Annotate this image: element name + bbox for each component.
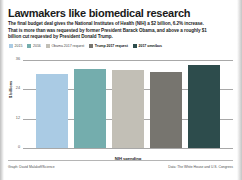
figure-inner: Lawmakers like biomedical research The f… <box>5 0 237 180</box>
chart-bar[interactable] <box>188 65 220 148</box>
y-axis-tick-label: 0 <box>9 145 20 149</box>
y-axis-tick-label: 24 <box>9 86 20 90</box>
legend-item[interactable]: 2016 <box>27 44 40 48</box>
chart-bar[interactable] <box>36 74 68 148</box>
legend-swatch-icon <box>46 44 50 48</box>
chart-bar[interactable] <box>112 70 144 148</box>
legend-label: 2017 omnibus <box>139 44 162 48</box>
legend-item[interactable]: 2015 <box>9 44 22 48</box>
legend-item[interactable]: 2017 omnibus <box>133 44 162 48</box>
footer-divider <box>8 160 233 161</box>
legend-item[interactable]: Obama 2017 request <box>46 44 84 48</box>
y-axis-tick-label: 12 <box>9 116 20 120</box>
page-title: Lawmakers like biomedical research <box>8 7 190 19</box>
legend-swatch-icon <box>27 44 31 48</box>
legend-label: Trump 2017 request <box>95 44 128 48</box>
legend-label: Obama 2017 request <box>51 44 84 48</box>
legend-swatch-icon <box>89 44 93 48</box>
data-source: Data: The White House and U.S. Congress <box>168 165 233 169</box>
legend-item[interactable]: Trump 2017 request <box>89 44 128 48</box>
chart-bar[interactable] <box>150 72 182 149</box>
chart-plot-area: $ billions 3624120 NIH spending <box>9 52 233 152</box>
figure-panel: Lawmakers like biomedical research The f… <box>0 0 242 180</box>
chart-legend: 20152016Obama 2017 requestTrump 2017 req… <box>9 44 162 48</box>
graph-credit: Graph: David Malakoff/Science <box>8 165 55 169</box>
figure-subtitle: The final budget deal gives the National… <box>8 21 208 41</box>
legend-label: 2016 <box>33 44 41 48</box>
legend-swatch-icon <box>9 44 13 48</box>
chart-bar[interactable] <box>74 69 106 148</box>
legend-label: 2015 <box>15 44 23 48</box>
y-axis-tick-label: 36 <box>9 57 20 61</box>
legend-swatch-icon <box>133 44 137 48</box>
chart-bars <box>23 52 233 152</box>
